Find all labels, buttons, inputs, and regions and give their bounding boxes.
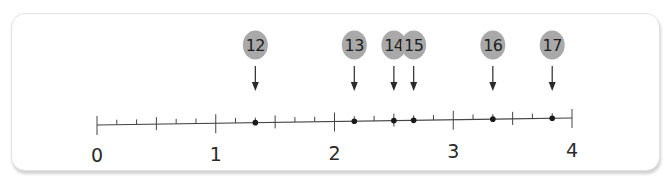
point-dot [351,118,357,124]
arrowhead-icon [351,82,358,91]
marker-15: 15 [401,31,426,124]
marker-number: 16 [483,36,503,55]
number-line-axis [97,109,572,135]
axis-label-4: 4 [566,139,578,161]
arrowhead-icon [549,82,556,91]
point-dot [490,116,496,122]
axis-label-1: 1 [210,143,222,165]
axis-label-3: 3 [447,140,459,162]
marker-12: 12 [243,31,268,126]
marker-number: 17 [543,36,562,55]
marker-number: 15 [404,36,423,55]
axis-label-0: 0 [91,144,103,166]
marker-number: 14 [384,36,404,55]
point-dot [253,120,259,126]
point-dot [549,115,555,121]
point-dot [411,118,417,124]
arrowhead-icon [410,82,417,91]
arrowhead-icon [390,82,397,91]
marker-number: 12 [246,36,265,55]
marker-13: 13 [342,31,367,125]
point-dot [391,118,397,124]
marker-17: 17 [540,31,565,122]
axis-labels: 01234 [91,139,578,166]
marker-number: 13 [345,36,364,55]
number-line-diagram: 01234 121314151617 [0,0,669,182]
arrowhead-icon [252,82,259,91]
arrowhead-icon [489,82,496,91]
axis-label-2: 2 [328,142,340,164]
question-markers: 121314151617 [243,31,565,126]
marker-16: 16 [480,31,505,122]
